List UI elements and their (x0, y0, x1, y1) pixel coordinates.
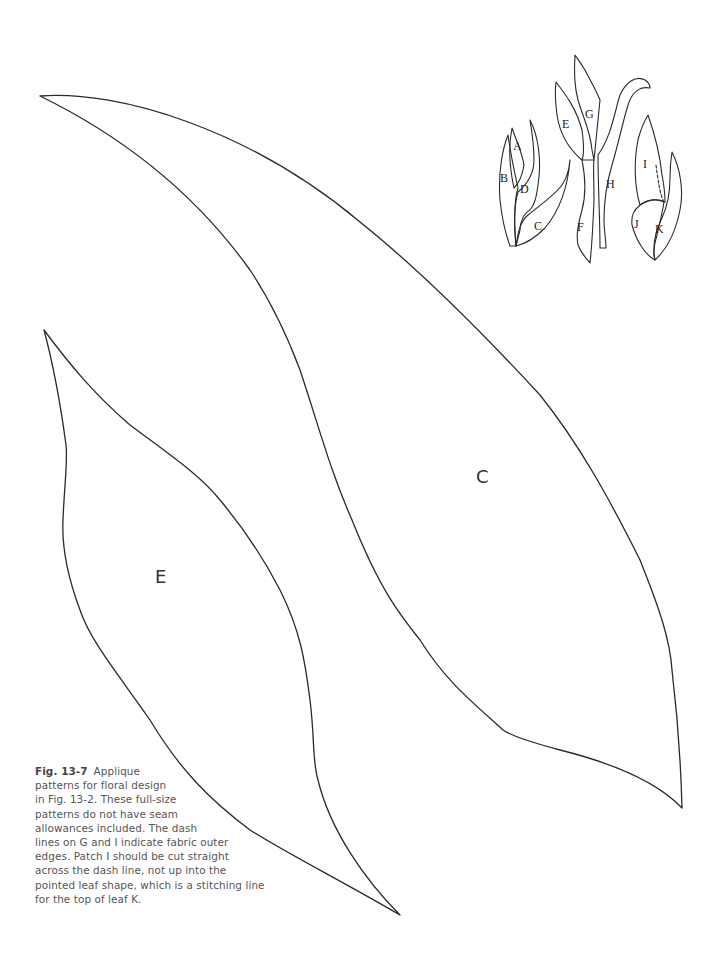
leaf-label-c: C (476, 466, 489, 487)
caption-line: edges. Patch I should be cut straight (35, 849, 365, 863)
caption-line: allowances included. The dash (35, 821, 365, 835)
caption-line: pointed leaf shape, which is a stitching… (35, 878, 365, 892)
key-label-k: K (655, 222, 664, 236)
key-label-j: J (634, 217, 639, 231)
key-label-g: G (585, 107, 594, 121)
key-diagram: A B C D E F G H I J K (499, 55, 681, 263)
key-label-b: B (500, 171, 508, 185)
caption-line: patterns for floral design (35, 778, 365, 792)
caption-line: in Fig. 13-2. These full-size (35, 792, 365, 806)
key-label-e: E (562, 117, 569, 131)
key-label-c: C (534, 219, 542, 233)
caption-line: lines on G and I indicate fabric outer (35, 835, 365, 849)
figure-caption: Fig. 13-7Applique patterns for floral de… (35, 764, 365, 906)
caption-line: across the dash line, not up into the (35, 863, 365, 877)
key-label-a: A (513, 139, 522, 153)
caption-line: for the top of leaf K. (35, 892, 365, 906)
key-label-h: H (606, 177, 615, 191)
caption-line: patterns do not have seam (35, 807, 365, 821)
key-label-f: F (577, 220, 584, 234)
key-label-i: I (643, 157, 647, 171)
patch-e-small (555, 82, 583, 160)
key-label-d: D (520, 182, 529, 196)
patch-k (654, 152, 682, 260)
patch-c-small (516, 160, 570, 246)
leaf-label-e: E (155, 566, 166, 587)
caption-line: Applique (94, 765, 140, 777)
dash-line-i (656, 165, 664, 202)
figure-number: Fig. 13-7 (35, 765, 88, 777)
patch-f (577, 160, 594, 263)
